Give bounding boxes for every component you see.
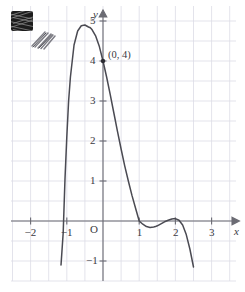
origin-label: O	[90, 224, 98, 235]
x-tick-label-3: 3	[209, 227, 215, 238]
scan-stamp-artifact	[11, 11, 33, 31]
graph-figure: −2 −1 1 2 3 5 4 3 2 1 −1 x y O (0, 4)	[0, 0, 245, 292]
y-tick-label-2: 2	[90, 135, 96, 146]
y-tick-label-3: 3	[90, 95, 96, 106]
y-intercept-marker	[101, 59, 105, 63]
x-tick-label-1: 1	[137, 227, 143, 238]
pencil-scribble-artifact	[30, 30, 56, 50]
x-axis-label: x	[234, 226, 239, 237]
y-tick-label--1: −1	[86, 255, 98, 266]
y-tick-label-4: 4	[90, 55, 96, 66]
y-axis-arrow	[99, 10, 107, 17]
x-tick-label-2: 2	[173, 227, 179, 238]
y-tick-label-1: 1	[90, 175, 96, 186]
x-axis-arrow	[232, 217, 240, 225]
point-label-0-4: (0, 4)	[108, 49, 131, 60]
x-tick-label--1: −1	[61, 227, 73, 238]
x-tick-label--2: −2	[25, 227, 37, 238]
y-axis-label: y	[93, 9, 98, 20]
